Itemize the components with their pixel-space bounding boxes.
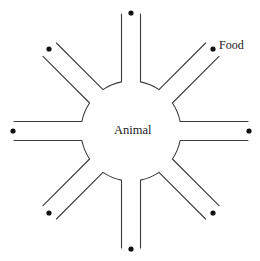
radial-arm-maze-diagram: Animal Food	[0, 0, 260, 261]
food-pellet-north-west	[46, 46, 51, 51]
food-label: Food	[219, 38, 244, 53]
food-pellet-east	[246, 128, 251, 133]
animal-label: Animal	[114, 123, 152, 138]
food-pellet-south-east	[210, 210, 215, 215]
food-pellet-north-east	[210, 46, 215, 51]
food-pellet-south	[128, 246, 133, 251]
food-pellet-north	[128, 10, 133, 15]
food-pellet-south-west	[46, 210, 51, 215]
food-pellet-west	[10, 128, 15, 133]
